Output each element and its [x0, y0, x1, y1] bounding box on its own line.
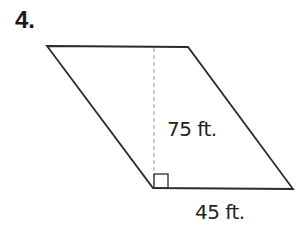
right-angle-marker: [154, 174, 168, 188]
base-label: 45 ft.: [195, 200, 245, 224]
height-label: 75 ft.: [167, 117, 217, 141]
parallelogram-figure: [0, 0, 303, 243]
